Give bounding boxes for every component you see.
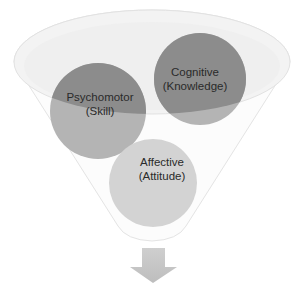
label-psychomotor-line1: Psychomotor [66,91,133,103]
label-affective-line2: (Attitude) [139,170,186,182]
circle-cognitive: Cognitive (Knowledge) [154,33,246,125]
label-psychomotor-line2: (Skill) [86,105,115,117]
label-affective-line1: Affective [140,156,184,168]
label-cognitive-line2: (Knowledge) [163,80,228,92]
funnel-diagram: Psychomotor (Skill) Cognitive (Knowledge… [0,0,305,295]
circle-affective: Affective (Attitude) [109,139,197,227]
down-arrow-icon [130,248,177,283]
label-cognitive-line1: Cognitive [171,66,219,78]
